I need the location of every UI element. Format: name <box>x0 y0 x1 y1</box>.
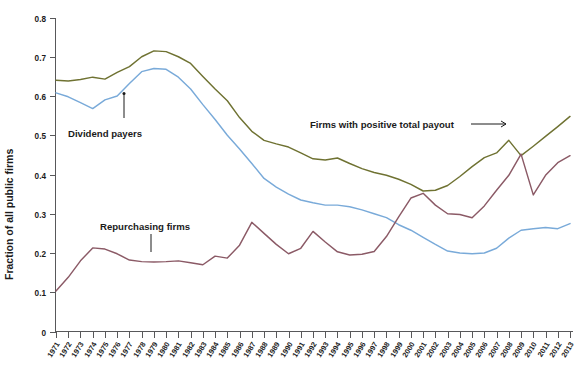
x-tick-label: 1981 <box>167 340 183 359</box>
y-axis-tick-labels: 00.10.20.30.40.50.60.70.8 <box>35 15 47 338</box>
y-tick-label: 0 <box>41 329 46 338</box>
y-tick-label: 0.7 <box>35 54 47 63</box>
x-tick-label: 1989 <box>265 340 281 359</box>
x-tick-label: 1998 <box>375 340 391 359</box>
annotation-positive-total-payout: Firms with positive total payout <box>310 119 506 130</box>
x-axis-ticks <box>57 332 571 338</box>
x-tick-label: 2006 <box>473 340 489 359</box>
y-tick-label: 0.1 <box>35 289 47 298</box>
y-axis-title: Fraction of all public firms <box>3 149 15 280</box>
x-tick-label: 1985 <box>216 340 232 359</box>
chart-container: Fraction of all public firms 00.10.20.30… <box>0 0 584 367</box>
line-chart: Fraction of all public firms 00.10.20.30… <box>0 0 584 367</box>
x-tick-label: 2010 <box>522 340 538 359</box>
x-tick-label: 2013 <box>559 340 575 359</box>
x-tick-label: 1977 <box>118 340 134 359</box>
y-tick-label: 0.3 <box>35 211 47 220</box>
x-tick-label: 2002 <box>424 340 440 359</box>
y-tick-label: 0.8 <box>35 15 47 24</box>
y-tick-label: 0.4 <box>35 172 47 181</box>
series-lines <box>56 51 570 291</box>
annotation-repurchasing-firms: Repurchasing firms <box>100 221 190 252</box>
y-tick-label: 0.5 <box>35 132 47 141</box>
annotation-label-repurchasing-firms: Repurchasing firms <box>100 221 190 232</box>
x-axis-tick-labels: 1971197219731974197519761977197819791980… <box>45 340 575 359</box>
annotation-label-positive-total-payout: Firms with positive total payout <box>310 119 455 130</box>
annotation-point-marker <box>123 92 126 95</box>
annotation-dividend-payers: Dividend payers <box>68 92 142 139</box>
annotation-label-dividend-payers: Dividend payers <box>68 128 142 139</box>
annotation-leader-arrow <box>471 121 506 127</box>
y-tick-label: 0.2 <box>35 250 47 259</box>
x-tick-label: 1973 <box>69 340 85 359</box>
y-tick-label: 0.6 <box>35 93 47 102</box>
